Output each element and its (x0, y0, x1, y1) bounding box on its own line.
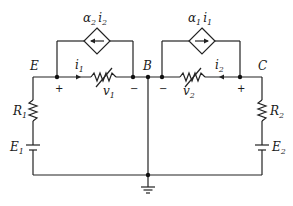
voltage-v1-label: v1 (103, 84, 115, 100)
right-source-label: α1i1 (188, 11, 212, 27)
arrow-i1-icon (76, 75, 81, 80)
right-dependent-source-branch (162, 28, 240, 77)
left-branch (26, 77, 40, 175)
plus-sign-v1: + (55, 83, 63, 94)
node-c-label: C (258, 59, 267, 73)
arrow-i2-icon (219, 75, 224, 80)
minus-sign-v2: − (159, 83, 167, 94)
resistor-r2-label: R2 (269, 104, 284, 120)
current-i1-label: i1 (75, 58, 84, 74)
voltage-v2-label: v2 (183, 84, 195, 100)
ground-icon (141, 175, 155, 193)
current-i2-label: i2 (215, 58, 224, 74)
battery-e2-label: E2 (271, 140, 286, 156)
right-branch (255, 77, 269, 175)
left-source-label: α2i2 (83, 11, 107, 27)
left-dependent-source-branch (57, 28, 133, 77)
node-e-label: E (29, 59, 39, 73)
resistor-r1-label: R1 (12, 104, 27, 120)
battery-e1-label: E1 (9, 140, 24, 156)
circuit-diagram: E B C α2i2 α1i1 i1 i2 v1 v2 + − − + R1 R… (0, 0, 293, 206)
plus-sign-v2: + (237, 83, 245, 94)
minus-sign-v1: − (130, 83, 138, 94)
node-b-label: B (142, 59, 152, 73)
